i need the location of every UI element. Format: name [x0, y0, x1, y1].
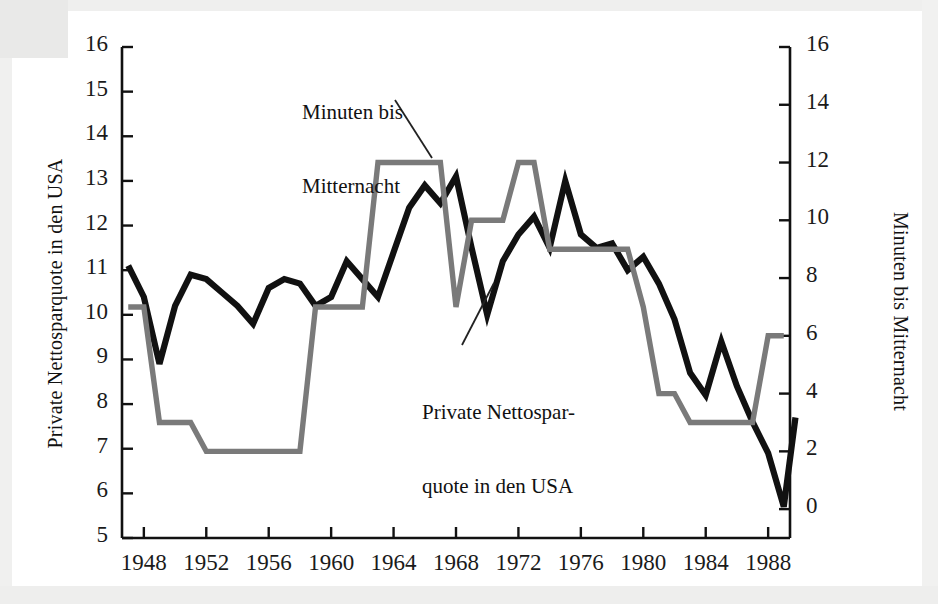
left-axis-tick-6: 6 — [42, 477, 108, 503]
right-axis-tick-14: 14 — [806, 89, 864, 115]
right-axis-tick-0: 0 — [806, 493, 864, 519]
left-axis-tick-8: 8 — [42, 388, 108, 414]
right-axis-tick-12: 12 — [806, 147, 864, 173]
left-axis-tick-16: 16 — [42, 31, 108, 57]
right-axis-title: Minuten bis Mitternacht — [889, 102, 912, 522]
annotation-sparquote-line-2: quote in den USA — [422, 474, 575, 499]
right-axis-tick-10: 10 — [806, 204, 864, 230]
left-axis-tick-11: 11 — [42, 254, 108, 280]
left-axis-tick-13: 13 — [42, 165, 108, 191]
left-axis-tick-12: 12 — [42, 210, 108, 236]
annotation-sparquote-line-1: Private Nettospar- — [422, 400, 575, 425]
annotation-minuten-line-1: Minuten bis — [302, 100, 403, 125]
left-axis-tick-7: 7 — [42, 433, 108, 459]
right-axis-tick-6: 6 — [806, 320, 864, 346]
right-axis-tick-8: 8 — [806, 262, 864, 288]
annotation-minuten-bis-mitternacht: Minuten bis Mitternacht — [302, 50, 403, 248]
annotation-private-nettosparquote: Private Nettospar- quote in den USA — [422, 350, 575, 548]
left-axis-tick-9: 9 — [42, 343, 108, 369]
left-axis-tick-14: 14 — [42, 120, 108, 146]
left-axis-tick-15: 15 — [42, 76, 108, 102]
right-axis-tick-2: 2 — [806, 435, 864, 461]
right-axis-tick-4: 4 — [806, 378, 864, 404]
x-axis-tick-1988: 1988 — [723, 550, 813, 576]
left-axis-tick-10: 10 — [42, 299, 108, 325]
chart-figure: Private Nettosparquote in den USA Minute… — [0, 0, 938, 604]
right-axis-tick-16: 16 — [806, 31, 864, 57]
annotation-minuten-line-2: Mitternacht — [302, 174, 403, 199]
left-axis-tick-5: 5 — [42, 522, 108, 548]
